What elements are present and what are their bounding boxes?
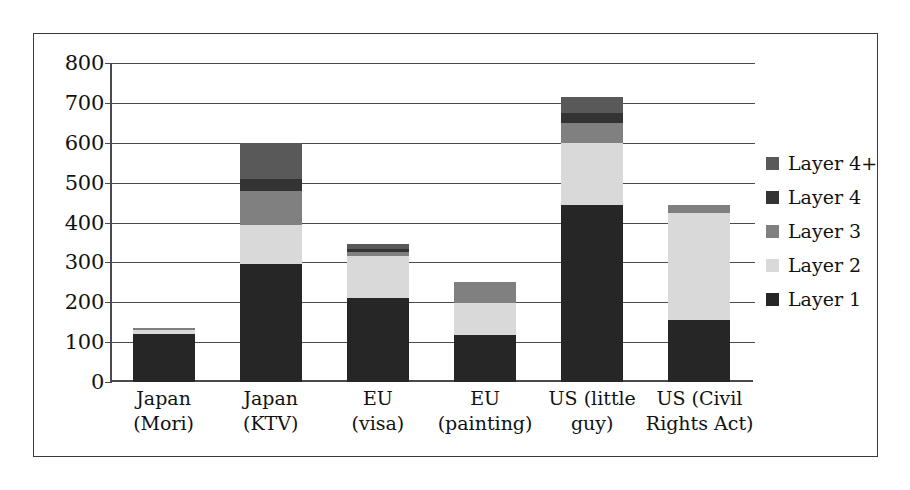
bar-segment-layer-4 [240,179,302,191]
legend-label: Layer 4+ [788,152,877,174]
legend-label: Layer 1 [788,288,861,310]
x-axis-tick-label: Japan(Mori) [110,386,217,436]
x-axis-label-line: Japan [110,386,217,411]
table-row[interactable] [668,205,730,382]
y-axis-labels: 8007006005004003002001000 [34,63,104,382]
table-row[interactable] [133,328,195,382]
legend-swatch-icon [766,259,779,272]
chart-figure: 8007006005004003002001000 Japan(Mori)Jap… [33,33,878,457]
x-axis-label-line: (painting) [432,411,539,436]
bar-group [324,63,431,382]
bar-segment-layer-2 [668,213,730,321]
stacked-bars [110,63,753,382]
y-axis-tick-label: 0 [34,372,104,393]
bar-group [646,63,753,382]
x-axis-label-line: Rights Act) [646,411,753,436]
x-axis-tick-label: US (CivilRights Act) [646,386,753,436]
bar-segment-layer-1 [133,334,195,382]
legend-swatch-icon [766,225,779,238]
legend-label: Layer 2 [788,254,861,276]
table-row[interactable] [347,244,409,382]
y-axis-tick-label: 400 [34,212,104,233]
y-axis-tick-label: 200 [34,292,104,313]
bar-segment-layer-4 [561,97,623,113]
bar-segment-layer-1 [240,264,302,382]
x-axis-label-line: (KTV) [217,411,324,436]
x-axis-label-line: EU [324,386,431,411]
bar-group [217,63,324,382]
bar-segment-layer-1 [347,298,409,382]
table-row[interactable] [454,282,516,382]
bar-segment-layer-4 [561,113,623,123]
x-axis-tick-label: EU(painting) [432,386,539,436]
legend-swatch-icon [766,293,779,306]
bar-segment-layer-3 [561,123,623,143]
bar-segment-layer-2 [454,303,516,335]
x-axis-label-line: (Mori) [110,411,217,436]
x-axis-labels: Japan(Mori)Japan(KTV)EU(visa)EU(painting… [110,386,753,446]
legend-item[interactable]: Layer 1 [766,282,876,316]
bar-segment-layer-3 [668,205,730,213]
x-axis-tick-label: EU(visa) [324,386,431,436]
chart-legend: Layer 4+Layer 4Layer 3Layer 2Layer 1 [766,146,876,316]
x-axis-label-line: US (little [539,386,646,411]
bar-segment-layer-2 [240,225,302,265]
bar-segment-layer-2 [561,143,623,205]
bar-segment-layer-2 [347,256,409,298]
legend-item[interactable]: Layer 4 [766,180,876,214]
table-row[interactable] [561,97,623,382]
legend-item[interactable]: Layer 2 [766,248,876,282]
bar-segment-layer-1 [561,205,623,382]
x-axis-label-line: guy) [539,411,646,436]
x-axis-tick-label: Japan(KTV) [217,386,324,436]
legend-swatch-icon [766,191,779,204]
bar-group [110,63,217,382]
bar-group [432,63,539,382]
legend-item[interactable]: Layer 4+ [766,146,876,180]
y-axis-tick-label: 600 [34,132,104,153]
legend-item[interactable]: Layer 3 [766,214,876,248]
legend-label: Layer 4 [788,186,861,208]
y-axis-tick-label: 700 [34,92,104,113]
bar-segment-layer-3 [240,191,302,225]
y-axis-tick-label: 100 [34,332,104,353]
y-axis-tick-label: 300 [34,252,104,273]
bar-group [539,63,646,382]
table-row[interactable] [240,143,302,382]
y-axis-tick-label: 800 [34,53,104,74]
legend-swatch-icon [766,157,779,170]
y-axis-tick-label: 500 [34,172,104,193]
x-axis-label-line: Japan [217,386,324,411]
bar-segment-layer-1 [454,335,516,382]
x-axis-tick-label: US (littleguy) [539,386,646,436]
bar-segment-layer-3 [454,282,516,303]
x-axis-label-line: (visa) [324,411,431,436]
bar-segment-layer-1 [668,320,730,382]
y-axis-tick [105,382,112,383]
bar-segment-layer-4 [240,143,302,179]
x-axis-label-line: EU [432,386,539,411]
legend-label: Layer 3 [788,220,861,242]
x-axis-label-line: US (Civil [646,386,753,411]
